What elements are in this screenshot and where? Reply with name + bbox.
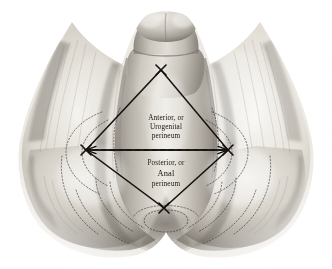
posterior-label-line2: Anal xyxy=(158,169,175,178)
anterior-label-line2: Urogenital xyxy=(150,123,182,131)
anatomical-figure: Anterior, or Urogenital perineum Posteri… xyxy=(0,0,332,269)
posterior-label-line3: perineum xyxy=(152,180,181,188)
anterior-perineum-label: Anterior, or Urogenital perineum xyxy=(148,114,184,140)
anterior-label-line3: perineum xyxy=(152,132,181,140)
anterior-label-line1: Anterior, or xyxy=(148,114,184,122)
figure-canvas: Anterior, or Urogenital perineum Posteri… xyxy=(0,0,332,269)
posterior-label-line1: Posterior, or xyxy=(147,159,185,167)
